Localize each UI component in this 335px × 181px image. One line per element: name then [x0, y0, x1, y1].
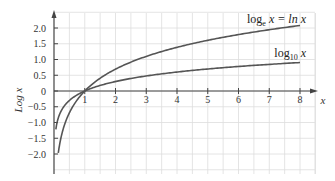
curves [56, 26, 300, 153]
x-tick-label: 6 [236, 94, 241, 105]
y-tick-label: 0.5 [34, 70, 47, 81]
y-tick-label: 0 [41, 86, 46, 97]
y-tick-label: 1.0 [34, 54, 47, 65]
y-tick-label: 2.0 [34, 23, 47, 34]
x-tick-label: 8 [298, 94, 303, 105]
y-tick-label: −1.0 [28, 117, 46, 128]
x-tick-label: 5 [205, 94, 210, 105]
x-axis-title: x [320, 94, 326, 106]
y-axis-title: Log x [12, 88, 24, 114]
y-tick-label: −2.0 [28, 149, 46, 160]
x-tick-label: 3 [144, 94, 149, 105]
log10-curve-label: log10 x [274, 46, 306, 62]
x-tick-label: 4 [175, 94, 180, 105]
y-tick-label: −1.5 [28, 133, 46, 144]
grid [54, 12, 315, 174]
ln-curve-label: loge x = ln x [247, 12, 307, 28]
axes [52, 10, 319, 174]
x-tick-label: 2 [113, 94, 118, 105]
x-tick-label: 7 [267, 94, 272, 105]
x-tick-label: 1 [82, 94, 87, 105]
y-tick-label: −0.5 [28, 101, 46, 112]
curve-ln [58, 26, 300, 153]
y-tick-label: 1.5 [34, 38, 47, 49]
log-chart: 123456782.01.51.00.50−0.5−1.0−1.5−2.0 Lo… [0, 0, 335, 181]
